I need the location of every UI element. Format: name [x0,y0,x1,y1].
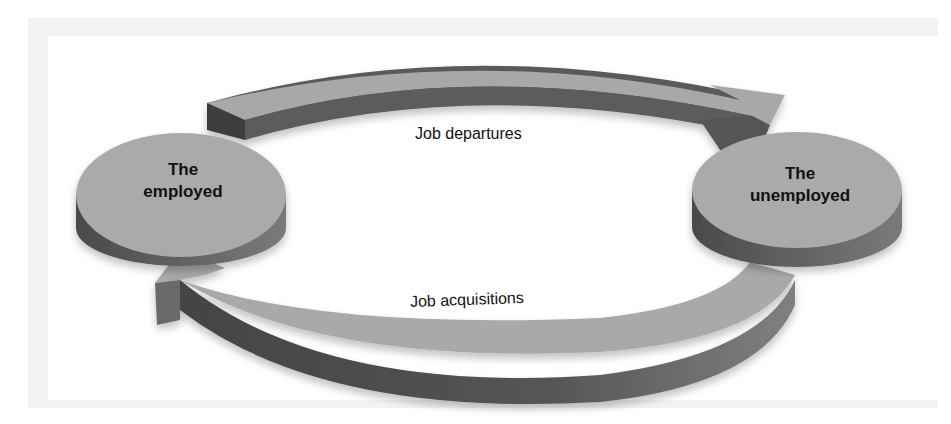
job-departures-label: Job departures [415,125,522,143]
employed-label-line2: employed [118,181,248,203]
unemployed-label-line1: The [730,163,870,185]
unemployed-label: The unemployed [730,163,870,207]
job-acquisitions-arrow [155,250,795,404]
flow-diagram [0,0,951,424]
employed-label: The employed [118,159,248,203]
employed-label-line1: The [118,159,248,181]
unemployed-label-line2: unemployed [730,185,870,207]
